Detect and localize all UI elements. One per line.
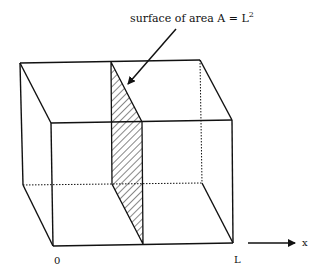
hatched-surface [111, 62, 143, 244]
cube-diagram: surface of area A = L2 0 L x [0, 0, 320, 276]
annotation-label: surface of area A = L2 [130, 10, 254, 25]
x-axis-label: x [302, 237, 308, 248]
origin-label: 0 [54, 255, 60, 266]
annotation-arrow [128, 29, 176, 84]
length-label: L [234, 254, 241, 265]
